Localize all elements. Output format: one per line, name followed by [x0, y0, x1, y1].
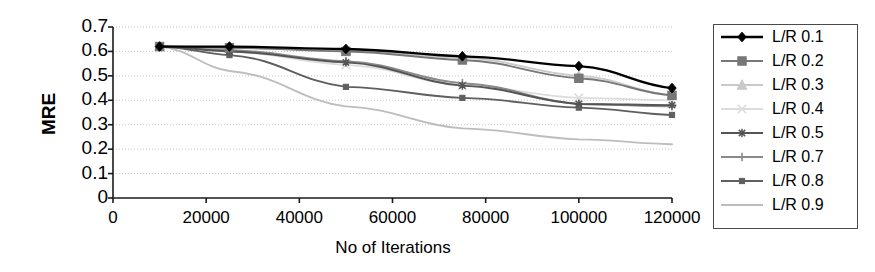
legend-sample-glyph — [718, 147, 766, 167]
legend-sample-glyph — [718, 99, 766, 119]
data-point — [575, 74, 583, 82]
legend-marker-asterisk-icon — [718, 123, 766, 143]
legend-sample-glyph — [718, 171, 766, 191]
legend-label: L/R 0.9 — [766, 196, 824, 214]
legend-marker — [738, 153, 746, 161]
series-line — [160, 47, 672, 89]
legend-label: L/R 0.2 — [766, 52, 824, 70]
legend-item[interactable]: L/R 0.3 — [714, 73, 857, 97]
legend-label: L/R 0.3 — [766, 76, 824, 94]
data-point — [343, 84, 348, 89]
legend-item[interactable]: L/R 0.8 — [714, 169, 857, 193]
legend-item[interactable]: L/R 0.2 — [714, 49, 857, 73]
data-point — [669, 112, 674, 117]
data-point — [668, 101, 676, 109]
legend-item[interactable]: L/R 0.1 — [714, 25, 857, 49]
legend-label: L/R 0.4 — [766, 100, 824, 118]
legend-marker — [739, 178, 744, 183]
y-axis-tick-label: 0.7 — [50, 15, 108, 37]
legend-marker-x-icon — [718, 99, 766, 119]
legend-sample-glyph — [718, 123, 766, 143]
legend-item[interactable]: L/R 0.5 — [714, 121, 857, 145]
legend-item[interactable]: L/R 0.7 — [714, 145, 857, 169]
legend-sample-glyph — [718, 195, 766, 215]
legend-item[interactable]: L/R 0.9 — [714, 193, 857, 217]
y-axis-tick-label: 0.1 — [50, 162, 108, 184]
x-axis-title: No of Iterations — [233, 238, 553, 258]
legend-label: L/R 0.1 — [766, 28, 824, 46]
legend-marker-triangle-icon — [718, 75, 766, 95]
legend-label: L/R 0.8 — [766, 172, 824, 190]
series-l-r-0-9 — [160, 47, 672, 145]
legend-marker-diamond-icon — [718, 27, 766, 47]
legend-item[interactable]: L/R 0.4 — [714, 97, 857, 121]
series-line — [160, 47, 672, 145]
legend-marker — [738, 57, 746, 65]
legend-label: L/R 0.5 — [766, 124, 824, 142]
y-axis-tick-label: 0.6 — [50, 39, 108, 61]
legend-marker-line-icon — [718, 195, 766, 215]
y-axis-tick-label: 0.3 — [50, 113, 108, 135]
y-axis-tick-label: 0 — [50, 186, 108, 208]
data-point — [342, 58, 350, 66]
legend-marker-square-icon — [718, 51, 766, 71]
legend-marker-dash-square-icon — [718, 171, 766, 191]
data-point — [575, 100, 583, 108]
legend-sample-glyph — [718, 51, 766, 71]
legend-marker — [738, 129, 746, 137]
chart-legend: L/R 0.1L/R 0.2L/R 0.3L/R 0.4L/R 0.5L/R 0… — [713, 24, 858, 229]
legend-sample-glyph — [718, 75, 766, 95]
legend-marker — [738, 32, 746, 42]
chart-figure: MRE 00.10.20.30.40.50.60.7 0200004000060… — [0, 0, 875, 272]
y-axis-tick-label: 0.2 — [50, 137, 108, 159]
legend-sample-glyph — [718, 27, 766, 47]
data-point — [460, 95, 465, 100]
legend-label: L/R 0.7 — [766, 148, 824, 166]
data-point — [575, 61, 583, 71]
legend-marker-plus-icon — [718, 147, 766, 167]
y-axis-tick-label: 0.4 — [50, 88, 108, 110]
data-point — [458, 81, 466, 89]
y-axis-tick-label: 0.5 — [50, 64, 108, 86]
x-axis-tick-label: 120000 — [617, 208, 727, 228]
